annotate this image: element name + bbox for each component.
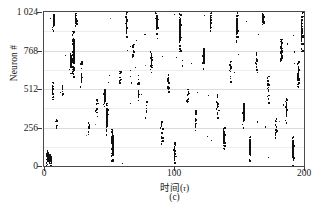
- spike-marker: [203, 68, 204, 70]
- spike-marker: [250, 153, 251, 155]
- burst-stripe: [292, 141, 294, 158]
- spike-marker: [81, 63, 83, 64]
- spike-marker: [56, 127, 57, 129]
- spike-marker: [243, 127, 244, 129]
- spike-marker: [230, 67, 231, 69]
- y-tick-mark: [37, 12, 42, 13]
- spike-marker: [81, 81, 82, 83]
- spike-marker: [263, 22, 265, 24]
- burst-stripe: [126, 16, 127, 30]
- spike-marker: [268, 98, 269, 99]
- spike-marker: [75, 25, 76, 27]
- spike-marker: [97, 116, 98, 117]
- burst-stripe: [151, 53, 152, 66]
- spike-marker: [294, 51, 295, 53]
- spike-marker: [230, 78, 231, 79]
- burst-stripe: [286, 102, 287, 117]
- spike-marker: [301, 51, 302, 52]
- spike-marker: [282, 42, 283, 44]
- burst-stripe: [53, 15, 55, 25]
- spike-marker: [280, 60, 281, 62]
- spike-marker: [204, 15, 205, 16]
- burst-stripe: [210, 15, 211, 25]
- spike-marker: [279, 121, 280, 122]
- spike-marker: [136, 40, 137, 41]
- spike-marker: [95, 124, 96, 125]
- spike-marker: [56, 126, 57, 127]
- spike-marker: [256, 58, 257, 60]
- spike-marker: [195, 130, 196, 131]
- burst-stripe: [51, 156, 52, 163]
- spike-marker: [112, 159, 114, 160]
- spike-marker: [162, 128, 164, 130]
- spike-marker: [161, 143, 162, 145]
- spike-marker: [119, 77, 121, 78]
- spike-marker: [211, 140, 212, 141]
- spike-marker: [168, 81, 169, 82]
- burst-stripe: [156, 16, 158, 28]
- spike-marker: [119, 80, 121, 81]
- spike-marker: [195, 111, 197, 113]
- spike-marker: [72, 31, 73, 32]
- spike-marker: [51, 165, 52, 166]
- y-tick-label: 1 024: [4, 7, 38, 17]
- spike-marker: [146, 101, 148, 102]
- spike-marker: [267, 96, 268, 97]
- spike-marker: [133, 50, 134, 51]
- spike-marker: [195, 123, 197, 124]
- spike-marker: [122, 163, 123, 164]
- spike-marker: [146, 110, 147, 111]
- y-tick-label: 768: [4, 46, 38, 56]
- spike-marker: [302, 43, 304, 45]
- spike-marker: [97, 100, 98, 102]
- spike-marker: [133, 44, 135, 45]
- spike-marker: [52, 99, 54, 100]
- spike-marker: [52, 97, 54, 98]
- spike-marker: [281, 57, 283, 59]
- spike-marker: [217, 106, 219, 107]
- spike-marker: [89, 125, 90, 127]
- spike-marker: [275, 132, 276, 134]
- spike-marker: [151, 72, 152, 73]
- spike-marker: [176, 57, 177, 58]
- spike-marker: [267, 83, 269, 84]
- burst-stripe: [73, 39, 75, 64]
- figure-panel-c: Neuron # 02565127681 024 0100200 时间(τ) (…: [0, 0, 319, 207]
- spike-marker: [65, 55, 66, 56]
- spike-marker: [175, 156, 177, 157]
- spike-marker: [161, 137, 163, 139]
- spike-marker: [217, 96, 218, 97]
- spike-marker: [197, 92, 198, 93]
- spike-marker: [268, 157, 269, 158]
- spike-marker: [224, 148, 225, 150]
- spike-marker: [130, 70, 131, 71]
- spike-marker: [302, 16, 304, 17]
- spike-marker: [130, 46, 131, 47]
- spike-marker: [191, 63, 192, 64]
- spike-marker: [132, 57, 133, 58]
- spike-marker: [162, 140, 164, 142]
- burst-stripe: [52, 85, 53, 95]
- y-tick-mark: [37, 166, 42, 167]
- spike-marker: [285, 120, 286, 121]
- spike-marker: [150, 69, 151, 70]
- spike-marker: [268, 102, 270, 104]
- spike-marker: [119, 82, 121, 84]
- spike-marker: [53, 30, 54, 32]
- spike-marker: [174, 144, 175, 145]
- spike-marker: [293, 35, 294, 36]
- spike-marker: [81, 68, 82, 69]
- spike-marker: [237, 36, 239, 38]
- spike-marker: [187, 94, 189, 95]
- spike-marker: [72, 34, 73, 36]
- spike-marker: [211, 27, 212, 28]
- spike-marker: [256, 63, 257, 65]
- spike-marker: [56, 119, 57, 121]
- burst-stripe: [249, 140, 251, 153]
- burst-stripe: [179, 19, 181, 41]
- spike-marker: [86, 135, 87, 136]
- spike-marker: [62, 88, 63, 90]
- spike-marker: [72, 66, 74, 68]
- spike-marker: [256, 61, 258, 62]
- spike-marker: [298, 61, 300, 63]
